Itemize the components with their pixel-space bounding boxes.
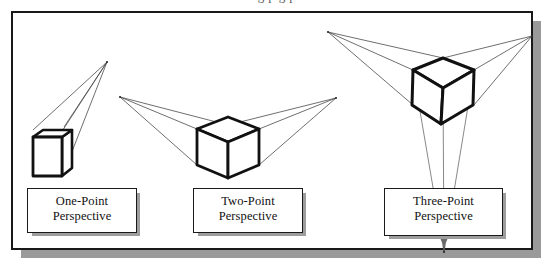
caption-two-point-line1: Two-Point (194, 194, 302, 209)
caption-three-point-line1: Three-Point (385, 194, 502, 209)
caption-two-point-line2: Perspective (194, 209, 302, 224)
figure-page: g p g p (0, 0, 554, 280)
caption-one-point-line1: One-Point (28, 194, 136, 209)
cutoff-text-above-figure: g p g p (0, 0, 554, 4)
caption-two-point-perspective: Two-Point Perspective (193, 188, 303, 233)
caption-one-point-perspective: One-Point Perspective (27, 188, 137, 233)
caption-three-point-line2: Perspective (385, 209, 502, 224)
three-point-bottom-vp-dot (443, 251, 445, 253)
caption-three-point-perspective: Three-Point Perspective (384, 188, 503, 236)
caption-one-point-line2: Perspective (28, 209, 136, 224)
